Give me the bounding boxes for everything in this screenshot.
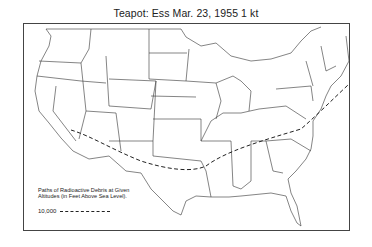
- legend-caption: Paths of Radioactive Debris at Given Alt…: [38, 187, 130, 200]
- legend-altitude: 10,000: [38, 208, 56, 214]
- dashed-line-swatch: [60, 211, 110, 212]
- debris-path: [24, 24, 350, 231]
- legend-entry: 10,000: [38, 208, 110, 214]
- map-title: Teapot: Ess Mar. 23, 1955 1 kt: [0, 7, 372, 19]
- map-frame: [23, 23, 350, 231]
